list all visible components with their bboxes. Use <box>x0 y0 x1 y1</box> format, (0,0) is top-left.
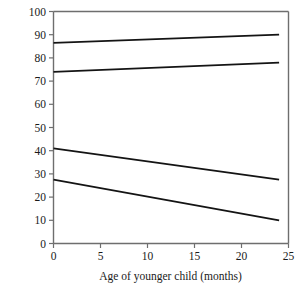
data-line-line-1-top <box>54 35 280 43</box>
y-tick-label: 40 <box>35 145 47 157</box>
plot-canvas: 01020304050607080901000510152025 <box>0 0 306 289</box>
y-tick-label: 90 <box>35 29 47 41</box>
y-tick-label: 70 <box>35 75 47 87</box>
y-tick-label: 100 <box>29 6 47 18</box>
x-tick-label: 15 <box>189 250 201 262</box>
data-line-line-4-bottom <box>54 180 280 221</box>
y-tick-label: 20 <box>35 191 47 203</box>
x-tick-label: 25 <box>283 250 295 262</box>
chart-figure: Quality of older child's attachment to m… <box>0 0 306 289</box>
y-tick-label: 50 <box>35 122 47 134</box>
y-tick-label: 30 <box>35 168 47 180</box>
x-tick-label: 20 <box>236 250 248 262</box>
y-tick-label: 0 <box>40 238 46 250</box>
y-tick-label: 60 <box>35 98 47 110</box>
y-tick-label: 10 <box>35 214 47 226</box>
data-line-line-2-upper-middle <box>54 63 280 72</box>
x-tick-label: 5 <box>98 250 104 262</box>
x-axis-label: Age of younger child (months) <box>53 269 288 283</box>
x-tick-label: 10 <box>142 250 154 262</box>
data-line-line-3-lower-middle <box>54 148 280 179</box>
x-tick-label: 0 <box>51 250 57 262</box>
y-tick-label: 80 <box>35 52 47 64</box>
